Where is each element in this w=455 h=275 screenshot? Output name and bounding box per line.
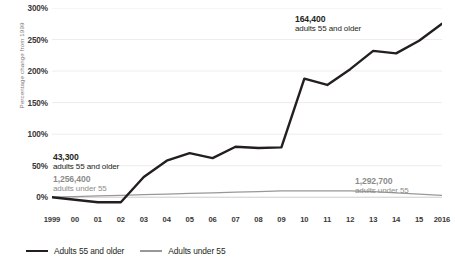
x-axis-tick-label: 13 [369,215,377,224]
line-chart: Percentage change from 1999 0%50%100%150… [0,0,455,275]
x-axis-tick-label: 03 [140,215,148,224]
x-axis-tick-label: 02 [117,215,125,224]
y-axis-tick-label: 200% [2,67,48,76]
x-axis-tick-label: 2016 [434,215,451,224]
annotation-right-dark: 164,400 adults 55 and older [295,14,361,34]
x-axis-tick-label: 12 [346,215,354,224]
annotation-left-gray: 1,256,400 adults under 55 [53,174,107,194]
annotation-label: adults under 55 [53,184,107,194]
y-axis-tick-label: 300% [2,4,48,13]
legend-swatch-icon [140,250,162,251]
legend-item-adults-55-and-older: Adults 55 and older [26,246,124,256]
annotation-left-dark: 43,300 adults 55 and older [53,152,119,172]
annotation-value: 1,256,400 [53,174,107,184]
x-axis-tick-label: 1999 [44,215,61,224]
x-axis-tick-label: 11 [323,215,331,224]
x-axis-tick-label: 00 [71,215,79,224]
y-axis-tick-label: 50% [2,161,48,170]
x-axis-tick-labels: 1999000102030405060708091011121314152016 [52,215,442,229]
x-axis-tick-label: 08 [254,215,262,224]
annotation-value: 43,300 [53,152,119,162]
y-axis-tick-labels: 0%50%100%150%200%250%300% [0,0,48,275]
x-axis-tick-label: 14 [392,215,400,224]
x-axis-tick-label: 06 [208,215,216,224]
y-axis-tick-label: 0% [2,193,48,202]
annotation-value: 1,292,700 [355,176,409,186]
legend-label: Adults 55 and older [54,246,124,256]
y-axis-tick-label: 150% [2,98,48,107]
y-axis-tick-label: 100% [2,130,48,139]
x-axis-tick-label: 15 [415,215,423,224]
x-axis-tick-label: 05 [186,215,194,224]
x-axis-tick-label: 01 [94,215,102,224]
x-axis-tick-label: 07 [231,215,239,224]
legend-swatch-icon [26,250,48,253]
x-axis-tick-label: 09 [277,215,285,224]
x-axis-tick-label: 10 [300,215,308,224]
x-axis-tick-label: 04 [163,215,171,224]
annotation-label: adults 55 and older [295,24,361,34]
legend-item-adults-under-55: Adults under 55 [140,246,225,256]
annotation-label: adults under 55 [355,186,409,196]
legend-label: Adults under 55 [168,246,225,256]
annotation-label: adults 55 and older [53,162,119,172]
chart-legend: Adults 55 and older Adults under 55 [26,246,225,256]
annotation-value: 164,400 [295,14,361,24]
y-axis-tick-label: 250% [2,35,48,44]
annotation-right-gray: 1,292,700 adults under 55 [355,176,409,196]
